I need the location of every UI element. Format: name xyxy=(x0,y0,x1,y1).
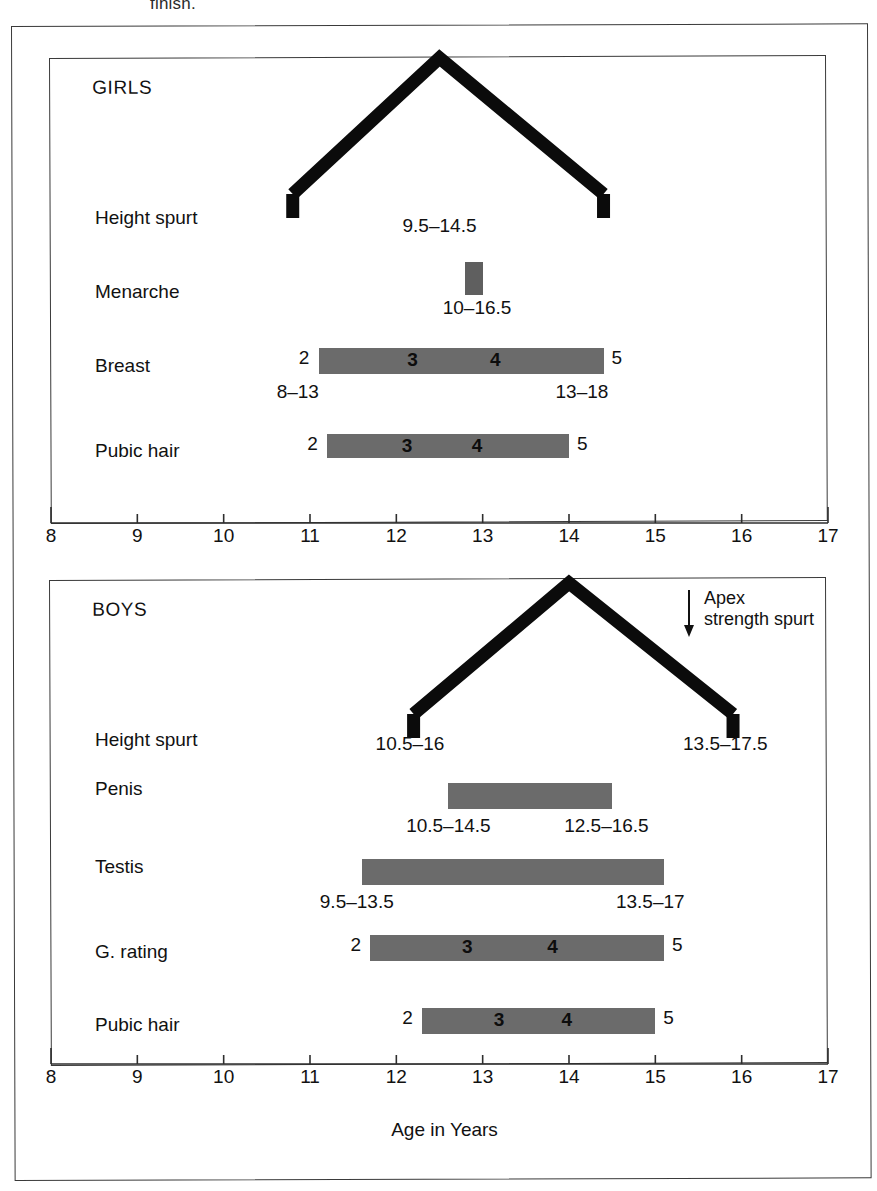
boys-pubic-hair-bar xyxy=(422,1008,655,1034)
boys-testis-range-left: 9.5–13.5 xyxy=(320,891,394,913)
boys-pubic-hair-stage-right: 5 xyxy=(663,1007,674,1029)
apex-note-line-1: Apex xyxy=(704,588,814,609)
axis-tick-14: 14 xyxy=(558,1066,579,1088)
boys-testis-range-right: 13.5–17 xyxy=(616,891,685,913)
boys-testis-bar xyxy=(362,859,664,885)
boys-height-spurt-range-right: 13.5–17.5 xyxy=(683,733,768,755)
boys-g-rating-stage-right: 5 xyxy=(672,934,683,956)
boys-penis-bar xyxy=(448,783,612,809)
boys-g-rating-bar xyxy=(370,935,664,961)
axis-tick-9: 9 xyxy=(132,1066,143,1088)
axis-tick-17: 17 xyxy=(817,1066,838,1088)
apex-down-arrow-icon xyxy=(680,588,700,640)
boys-pubic-hair-stage-4: 4 xyxy=(561,1009,572,1031)
axis-tick-11: 11 xyxy=(300,1066,320,1088)
boys-height-spurt-range-left: 10.5–16 xyxy=(376,733,445,755)
axis-tick-10: 10 xyxy=(213,1066,234,1088)
apex-strength-spurt-note: Apex strength spurt xyxy=(704,588,814,630)
axis-tick-16: 16 xyxy=(731,1066,752,1088)
boys-g-rating-stage-left: 2 xyxy=(350,934,361,956)
boys-penis-range-left: 10.5–14.5 xyxy=(406,815,491,837)
boys-pubic-hair-stage-3: 3 xyxy=(494,1009,505,1031)
boys-penis-range-right: 12.5–16.5 xyxy=(564,815,649,837)
axis-caption-age-in-years: Age in Years xyxy=(391,1119,498,1141)
axis-tick-8: 8 xyxy=(46,1066,57,1088)
axis-tick-12: 12 xyxy=(386,1066,407,1088)
boys-g-rating-stage-3: 3 xyxy=(462,936,473,958)
axis-tick-13: 13 xyxy=(472,1066,493,1088)
boys-g-rating-stage-4: 4 xyxy=(547,936,558,958)
boys-pubic-hair-stage-left: 2 xyxy=(402,1007,413,1029)
apex-note-line-2: strength spurt xyxy=(704,609,814,630)
axis-tick-15: 15 xyxy=(645,1066,666,1088)
